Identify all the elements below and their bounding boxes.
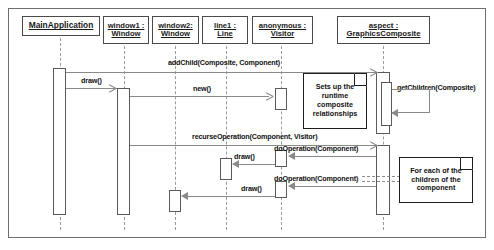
activation-window1 [117,88,130,215]
message-label-dooperation-2: doOperation(Component) [274,174,358,183]
message-label-recurseoperation: recurseOperation(Component, Visitor) [192,132,317,141]
lifeline-head-line1-class: Line [217,30,233,38]
lifeline-head-aspect-class: GraphicsComposite [346,30,420,38]
message-label-dooperation-1: doOperation(Component) [274,144,358,153]
message-arrowhead-dooperation-1 [288,152,295,160]
lifeline-head-window1[interactable]: window1 : Window [103,16,149,44]
message-arrowhead-recurseoperation [369,141,377,150]
message-line-draw-window2 [188,196,275,197]
activation-main [53,68,66,215]
activation-visitor-dooperation-2 [275,181,287,198]
activation-aspect-self [381,82,392,126]
sequence-diagram-canvas: MainApplication window1 : Window window2… [0,0,494,250]
message-arrowhead-addchild [369,68,377,77]
note-runtime-relationships: Sets up the runtime composite relationsh… [303,73,367,129]
note-foreach-connector-2 [362,181,400,182]
message-label-draw-window2: draw() [241,184,262,193]
note-foreach-children: For each of the children of the componen… [399,157,473,203]
message-label-draw-window1: draw() [81,76,102,85]
note-foreach-children-text: For each of the children of the componen… [404,167,468,193]
message-label-addchild: addChild(Composite, Component) [168,58,280,67]
message-arrowhead-draw-window1 [108,84,116,93]
note-fold-corner-icon-2 [460,156,474,170]
lifeline-head-visitor-class: Visitor [271,30,295,38]
message-arrowhead-dooperation-2 [288,182,295,190]
message-line-dooperation-1 [295,156,376,157]
lifeline-head-window2-class: Window [161,30,190,38]
lifeline-head-line1[interactable]: line1 : Line [202,16,248,44]
note-fold-corner-icon [354,72,368,86]
activation-line1-draw [220,158,232,180]
message-arrowhead-new [265,92,273,101]
message-label-new: new() [193,84,211,93]
message-line-dooperation-2 [295,186,376,187]
lifeline-head-window1-class: Window [111,30,140,38]
activation-aspect-recurse [376,145,390,215]
activation-window2-draw [169,190,181,212]
message-arrowhead-draw-line1 [232,160,239,168]
lifeline-head-aspect[interactable]: aspect : GraphicsComposite [337,16,430,44]
lifeline-head-main-name: MainApplication [29,21,94,30]
lifeline-head-window2[interactable]: window2: Window [152,16,199,44]
lifeline-head-visitor[interactable]: anonymous : Visitor [252,16,313,44]
message-arrowhead-draw-window2 [181,192,188,200]
activation-visitor-new [275,88,287,110]
note-foreach-connector [362,176,400,177]
lifeline-head-main[interactable]: MainApplication [22,16,100,36]
note-runtime-relationships-text: Sets up the runtime composite relationsh… [308,83,362,118]
message-line-draw-line1 [239,164,275,165]
message-arrowhead-getchildren [391,109,398,117]
message-line-new [130,96,269,97]
